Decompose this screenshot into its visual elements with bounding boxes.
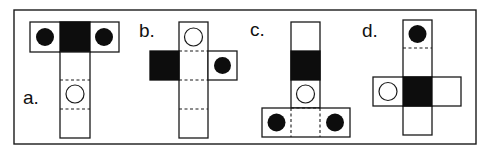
net-d-black-face: [403, 77, 432, 106]
option-label-b: b.: [139, 20, 155, 41]
hollow-dot-icon: [297, 85, 315, 103]
option-label-c: c.: [250, 19, 265, 40]
filled-dot-icon: [326, 114, 344, 132]
hollow-dot-icon: [66, 85, 84, 103]
option-label-a: a.: [23, 87, 39, 108]
net-d: d.: [362, 20, 461, 135]
filled-dot-icon: [268, 114, 286, 132]
net-b-black-face: [150, 51, 179, 80]
filled-dot-icon: [36, 28, 54, 46]
option-label-d: d.: [362, 20, 378, 41]
net-c-black-face: [291, 51, 320, 80]
hollow-dot-icon: [185, 28, 203, 46]
filled-dot-icon: [214, 57, 231, 74]
filled-dot-icon: [409, 25, 427, 43]
net-a: a.: [23, 22, 119, 138]
filled-dot-icon: [95, 28, 113, 46]
net-b: b.: [139, 20, 237, 138]
net-a-black-face: [60, 22, 90, 52]
cube-net-figure: a. b. c.: [0, 0, 486, 152]
net-c: c.: [250, 19, 350, 137]
hollow-dot-icon: [379, 83, 397, 101]
